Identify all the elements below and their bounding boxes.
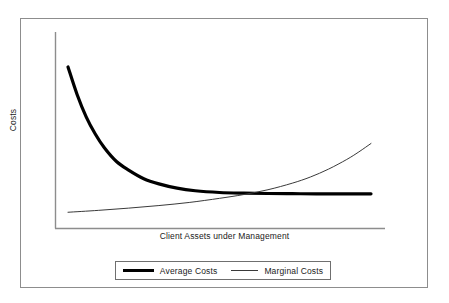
thick-line-swatch-icon [123,269,154,272]
legend-item-average-costs: Average Costs [123,266,218,276]
legend-label-average-costs: Average Costs [160,266,218,276]
thin-line-swatch-icon [231,270,258,271]
chart-plot-area [0,0,449,303]
legend-label-marginal-costs: Marginal Costs [264,266,323,276]
legend-item-marginal-costs: Marginal Costs [231,266,323,276]
chart-legend: Average Costs Marginal Costs [115,261,331,280]
figure: Costs Client Assets under Management Ave… [0,0,449,303]
series-line-average-costs [68,67,371,194]
y-axis-title: Costs [8,90,18,150]
series-line-marginal-costs [68,143,371,212]
x-axis-title: Client Assets under Management [0,231,449,241]
